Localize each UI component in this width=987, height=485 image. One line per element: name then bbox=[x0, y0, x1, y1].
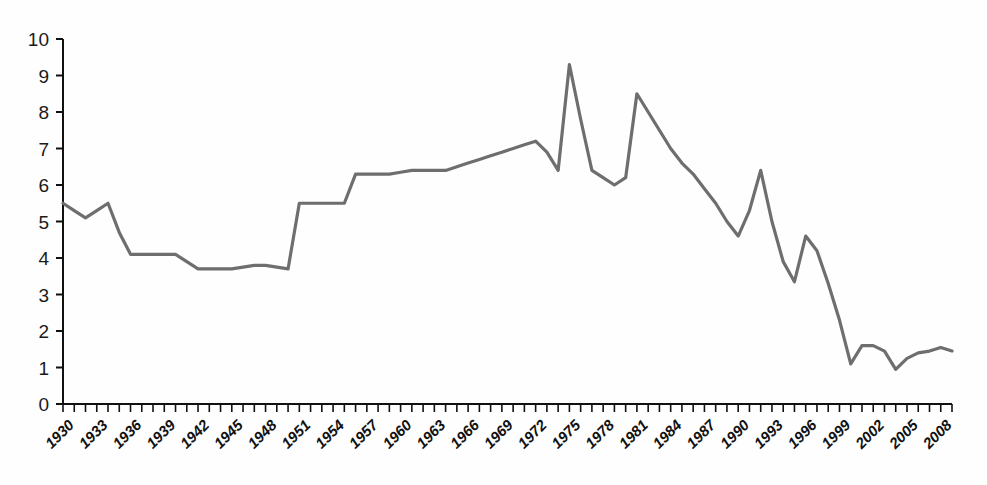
x-axis-tick-label: 1930 bbox=[42, 416, 78, 452]
chart-container: 012345678910 193019331936193919421945194… bbox=[0, 0, 987, 485]
x-axis-tick-label: 1954 bbox=[312, 416, 348, 452]
y-axis-tick-label: 0 bbox=[38, 394, 49, 415]
x-axis-tick-label: 1984 bbox=[649, 416, 685, 452]
x-axis-tick-label: 1957 bbox=[345, 416, 381, 452]
x-axis-tick-label: 1996 bbox=[784, 416, 820, 452]
line-chart: 012345678910 193019331936193919421945194… bbox=[0, 0, 987, 485]
x-axis-tick-label: 1999 bbox=[818, 416, 854, 452]
x-axis-tick-label: 1978 bbox=[582, 416, 618, 452]
x-axis-tick-label: 1945 bbox=[210, 416, 246, 452]
x-axis-tick-label: 2002 bbox=[851, 416, 888, 453]
x-axis-tick-label: 1942 bbox=[177, 416, 213, 452]
x-axis bbox=[63, 404, 952, 412]
x-axis-tick-label: 1966 bbox=[447, 416, 483, 452]
y-axis-tick-label: 4 bbox=[38, 248, 49, 269]
x-axis-tick-label: 1972 bbox=[514, 416, 550, 452]
x-axis-tick-label: 2005 bbox=[885, 416, 922, 453]
x-axis-tick-label: 1975 bbox=[548, 416, 584, 452]
x-axis-tick-label: 1969 bbox=[480, 416, 516, 452]
y-axis-tick-label: 7 bbox=[38, 139, 49, 160]
y-axis-tick-label: 8 bbox=[38, 102, 49, 123]
x-axis-tick-labels: 1930193319361939194219451948195119541957… bbox=[42, 416, 956, 453]
y-axis-tick-label: 10 bbox=[28, 29, 49, 50]
data-series-line bbox=[63, 65, 952, 370]
series-line-value bbox=[63, 65, 952, 370]
y-axis-tick-label: 3 bbox=[38, 285, 49, 306]
y-axis-tick-label: 9 bbox=[38, 66, 49, 87]
y-axis-tick-label: 2 bbox=[38, 321, 49, 342]
x-axis-tick-label: 1936 bbox=[109, 416, 145, 452]
x-axis-tick-label: 1987 bbox=[683, 416, 719, 452]
y-axis-tick-label: 5 bbox=[38, 212, 49, 233]
x-axis-tick-label: 1990 bbox=[717, 416, 753, 452]
x-axis-tick-label: 2008 bbox=[919, 416, 956, 453]
x-axis-tick-label: 1933 bbox=[75, 416, 111, 452]
y-axis-tick-label: 1 bbox=[38, 358, 49, 379]
y-axis: 012345678910 bbox=[28, 29, 63, 415]
x-axis-tick-label: 1951 bbox=[278, 416, 314, 452]
x-axis-tick-label: 1963 bbox=[413, 416, 449, 452]
y-axis-tick-label: 6 bbox=[38, 175, 49, 196]
x-axis-tick-label: 1993 bbox=[750, 416, 786, 452]
x-axis-tick-label: 1960 bbox=[379, 416, 415, 452]
x-axis-tick-label: 1939 bbox=[143, 416, 179, 452]
x-axis-tick-label: 1948 bbox=[244, 416, 280, 452]
x-axis-tick-label: 1981 bbox=[615, 416, 651, 452]
